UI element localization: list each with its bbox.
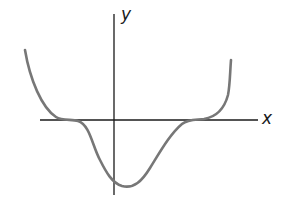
function-curve bbox=[25, 50, 231, 187]
function-graph bbox=[0, 0, 287, 203]
x-axis-label: x bbox=[262, 110, 272, 127]
y-axis-label: y bbox=[121, 6, 131, 23]
